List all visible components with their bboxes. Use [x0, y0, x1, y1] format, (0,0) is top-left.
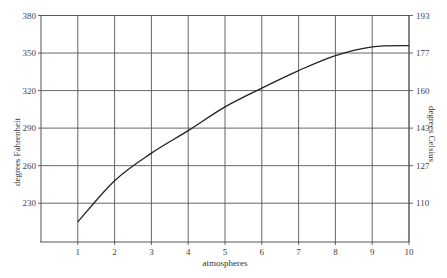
x-tick-label: 5 [223, 247, 228, 257]
y-tick-label-right: 193 [416, 11, 430, 21]
y-tick-label-right: 110 [416, 198, 430, 208]
x-tick-label: 7 [296, 247, 301, 257]
plot-frame [40, 16, 409, 243]
x-tick-label: 9 [370, 247, 375, 257]
x-tick-label: 2 [112, 247, 117, 257]
x-tick-label: 4 [186, 247, 191, 257]
x-tick-label: 3 [149, 247, 154, 257]
y-tick-label-left: 230 [23, 198, 37, 208]
boiling-point-chart: 230260290320350380 110127143160177193 12… [0, 0, 447, 278]
y-tick-label-left: 350 [23, 48, 37, 58]
data-line [78, 46, 409, 222]
x-tick-label: 1 [76, 247, 81, 257]
x-axis-title: atmospheres [203, 258, 248, 268]
x-tick-label: 10 [405, 247, 415, 257]
x-tick-label: 8 [333, 247, 338, 257]
y-axis-title-left: degrees Fahrenheit [12, 117, 22, 186]
y-axis-title-right: degrees Celsius [427, 106, 437, 163]
y-tick-label-right: 177 [416, 48, 430, 58]
x-axis-atmospheres: 12345678910 [76, 247, 414, 257]
x-tick-label: 6 [260, 247, 265, 257]
y-tick-label-left: 380 [23, 11, 37, 21]
right-axis-celsius: 110127143160177193 [409, 11, 430, 209]
left-axis-fahrenheit: 230260290320350380 [23, 11, 37, 209]
y-tick-label-left: 290 [23, 123, 37, 133]
y-tick-label-right: 160 [416, 86, 430, 96]
y-tick-label-left: 320 [23, 86, 37, 96]
y-tick-label-right: 127 [416, 161, 430, 171]
y-tick-label-left: 260 [23, 161, 37, 171]
